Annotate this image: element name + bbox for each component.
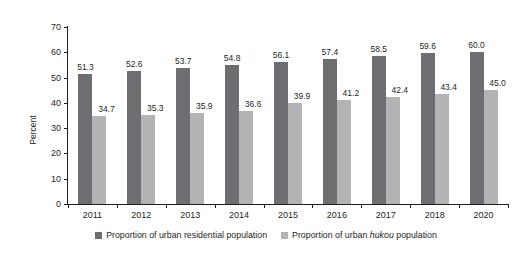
x-axis-tick-mark xyxy=(361,204,362,208)
bar-group: 59.643.42018 xyxy=(421,27,449,204)
x-axis-tick-label: 2015 xyxy=(268,211,308,220)
x-axis-tick-label: 2014 xyxy=(219,211,259,220)
y-axis-tick-mark xyxy=(64,128,68,129)
bar-value-label: 36.6 xyxy=(241,100,265,109)
bar-hukou xyxy=(337,100,351,204)
bar-group: 54.836.62014 xyxy=(225,27,253,204)
bar-group: 53.735.92013 xyxy=(176,27,204,204)
bar-value-label: 59.6 xyxy=(416,42,440,51)
y-axis-tick-label: 60 xyxy=(51,48,61,57)
y-axis-tick-label: 10 xyxy=(51,174,61,183)
x-axis-tick-mark xyxy=(312,204,313,208)
x-axis-tick-mark xyxy=(166,204,167,208)
bar-hukou xyxy=(484,90,498,204)
x-axis-tick-label: 2017 xyxy=(366,211,406,220)
bar-value-label: 43.4 xyxy=(437,83,461,92)
bar-value-label: 60.0 xyxy=(465,41,489,50)
bar-chart-figure: Percent 706050403020100 51.334.7201152.6… xyxy=(0,0,532,259)
bar-residential xyxy=(421,53,435,204)
x-axis-line xyxy=(67,204,509,205)
bar-value-label: 52.6 xyxy=(122,60,146,69)
bar-hukou xyxy=(92,116,106,204)
legend-swatch-icon xyxy=(95,232,102,239)
bar-value-label: 35.3 xyxy=(143,104,167,113)
bar-hukou xyxy=(190,113,204,204)
bar-value-label: 56.1 xyxy=(269,51,293,60)
y-axis-tick-label: 70 xyxy=(51,23,61,32)
bar-group: 57.441.22016 xyxy=(323,27,351,204)
bar-hukou xyxy=(435,94,449,204)
x-axis-tick-mark xyxy=(410,204,411,208)
legend-item[interactable]: Proportion of urban residential populati… xyxy=(95,230,267,240)
bar-residential xyxy=(176,68,190,204)
x-axis-tick-label: 2012 xyxy=(121,211,161,220)
bar-residential xyxy=(323,59,337,204)
plot-area: 706050403020100 51.334.7201152.635.32012… xyxy=(68,27,508,204)
bar-value-label: 54.8 xyxy=(220,54,244,63)
legend-item[interactable]: Proportion of urban hukou population xyxy=(281,230,437,240)
y-axis-tick-label: 40 xyxy=(51,98,61,107)
y-axis-tick-mark xyxy=(64,103,68,104)
bar-hukou xyxy=(239,111,253,204)
bar-value-label: 45.0 xyxy=(486,79,510,88)
x-axis-tick-label: 2013 xyxy=(170,211,210,220)
bar-residential xyxy=(127,71,141,204)
bar-value-label: 58.5 xyxy=(367,45,391,54)
y-axis-tick-label: 0 xyxy=(56,200,61,209)
bar-value-label: 57.4 xyxy=(318,48,342,57)
x-axis-tick-mark xyxy=(215,204,216,208)
x-axis-tick-mark xyxy=(264,204,265,208)
bar-group: 56.139.92015 xyxy=(274,27,302,204)
x-axis-tick-mark xyxy=(117,204,118,208)
bar-group: 51.334.72011 xyxy=(78,27,106,204)
bar-value-label: 34.7 xyxy=(94,105,118,114)
bar-residential xyxy=(274,62,288,204)
bar-value-label: 53.7 xyxy=(171,57,195,66)
x-axis-tick-label: 2011 xyxy=(72,211,112,220)
bar-value-label: 42.4 xyxy=(388,86,412,95)
x-axis-tick-label: 2020 xyxy=(464,211,504,220)
y-axis-tick-mark xyxy=(64,179,68,180)
bar-value-label: 35.9 xyxy=(192,102,216,111)
x-axis-tick-mark xyxy=(68,204,69,208)
y-axis-tick-label: 20 xyxy=(51,149,61,158)
bar-group: 58.542.42017 xyxy=(372,27,400,204)
bar-group: 60.045.02020 xyxy=(470,27,498,204)
y-axis-tick-mark xyxy=(64,27,68,28)
bar-hukou xyxy=(386,97,400,204)
legend-label: Proportion of urban hukou population xyxy=(292,230,437,240)
y-axis-tick-mark xyxy=(64,52,68,53)
chart-legend: Proportion of urban residential populati… xyxy=(0,230,532,240)
y-axis-tick-label: 30 xyxy=(51,124,61,133)
x-axis-tick-label: 2016 xyxy=(317,211,357,220)
y-axis-tick-mark xyxy=(64,78,68,79)
x-axis-tick-mark xyxy=(459,204,460,208)
bar-group: 52.635.32012 xyxy=(127,27,155,204)
legend-label: Proportion of urban residential populati… xyxy=(106,230,267,240)
x-axis-tick-mark xyxy=(508,204,509,208)
bar-value-label: 51.3 xyxy=(73,63,97,72)
bar-residential xyxy=(470,52,484,204)
bar-residential xyxy=(225,65,239,204)
bar-value-label: 41.2 xyxy=(339,89,363,98)
y-axis-tick-mark xyxy=(64,153,68,154)
x-axis-tick-label: 2018 xyxy=(415,211,455,220)
legend-swatch-icon xyxy=(281,232,288,239)
bar-residential xyxy=(372,56,386,204)
y-axis-title: Percent xyxy=(28,115,38,144)
bar-value-label: 39.9 xyxy=(290,92,314,101)
y-axis-tick-label: 50 xyxy=(51,73,61,82)
bar-residential xyxy=(78,74,92,204)
bar-hukou xyxy=(288,103,302,204)
bar-hukou xyxy=(141,115,155,204)
